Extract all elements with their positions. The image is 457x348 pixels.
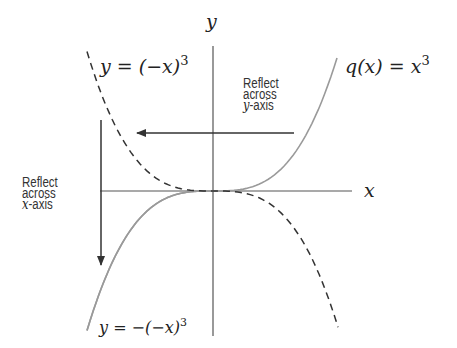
x-axis-label: x xyxy=(364,179,375,201)
reflection-diagram: y x y = (−x)3 q(x) = x3 y = −(−x)3 Refle… xyxy=(0,0,457,348)
label-q-x-cubed: q(x) = x3 xyxy=(345,53,430,77)
label-neg-neg-x-cubed: y = −(−x)3 xyxy=(98,316,187,337)
annotation-reflect-x-axis: Reflect across x-axis xyxy=(22,174,58,212)
annotation-reflect-y-axis: Reflect across y-axis xyxy=(242,75,279,113)
svg-text:x-axis: x-axis xyxy=(22,196,53,212)
label-neg-x-cubed: y = (−x)3 xyxy=(99,53,188,77)
curve-neg-neg-x-cubed xyxy=(87,191,213,331)
curve-q-x-cubed xyxy=(87,58,337,331)
svg-text:y-axis: y-axis xyxy=(242,97,274,113)
y-axis-label: y xyxy=(205,10,217,32)
